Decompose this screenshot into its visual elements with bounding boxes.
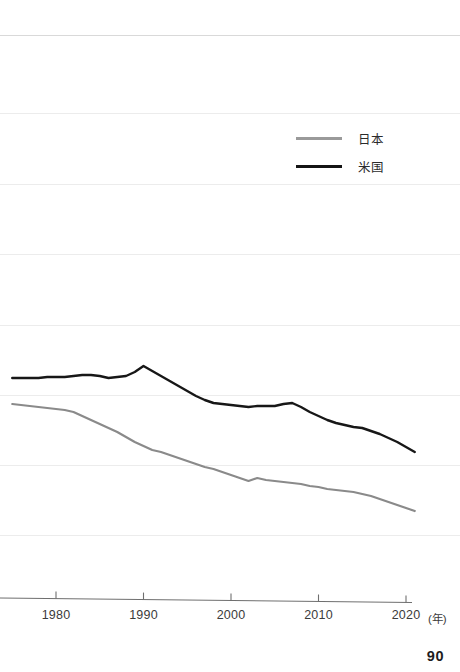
- legend-label-usa: 米国: [358, 157, 384, 176]
- gridlines: [0, 36, 460, 536]
- x-axis: [0, 592, 412, 603]
- data-series-group: [12, 366, 415, 511]
- data-series-usa: [12, 366, 415, 452]
- legend-item-usa: 米国: [296, 152, 406, 180]
- x-tick-label-1980: 1980: [42, 608, 71, 622]
- x-tick-label-2020: 2020: [392, 608, 421, 622]
- x-axis-unit-label: (年): [428, 610, 447, 626]
- legend-item-japan: 日本: [296, 124, 406, 152]
- legend-label-japan: 日本: [358, 129, 384, 148]
- x-tick-label-2010: 2010: [304, 608, 333, 622]
- x-axis-line: [0, 598, 412, 603]
- data-series-japan: [12, 404, 415, 511]
- x-tick-label-2000: 2000: [217, 608, 246, 622]
- line-chart-plot: [0, 0, 460, 672]
- chart-figure: 19801990200020102020 (年) 日本 米国 90: [0, 0, 460, 672]
- x-tick-label-1990: 1990: [129, 608, 158, 622]
- legend-swatch-japan-icon: [296, 137, 342, 140]
- legend-swatch-usa-icon: [296, 165, 342, 168]
- page-number: 90: [427, 648, 444, 664]
- chart-legend: 日本 米国: [296, 124, 406, 180]
